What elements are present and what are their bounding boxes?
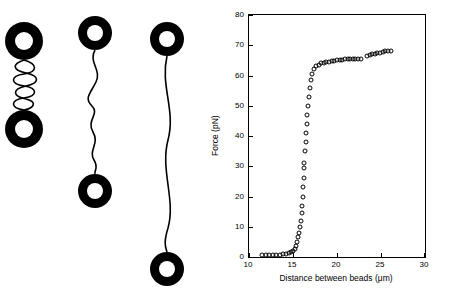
y-axis-tick	[249, 197, 253, 198]
x-axis-tick-label: 20	[332, 260, 341, 269]
y-axis-tick-label: 30	[200, 161, 244, 170]
data-point	[358, 57, 363, 62]
data-point	[294, 244, 299, 249]
data-point	[298, 218, 303, 223]
y-axis-tick	[249, 106, 253, 107]
data-point	[306, 94, 311, 99]
figure-root: Force (pN) Distance between beads (μm) 0…	[0, 0, 450, 295]
y-axis-tick-label: 80	[200, 10, 244, 19]
y-axis-tick-label: 70	[200, 40, 244, 49]
y-axis-tick	[249, 45, 253, 46]
plot-area	[249, 15, 425, 257]
plot-frame	[248, 14, 426, 258]
y-axis-tick	[249, 15, 253, 16]
y-axis-tick	[249, 76, 253, 77]
y-axis-tick-label: 10	[200, 221, 244, 230]
y-axis-tick-label: 0	[200, 252, 244, 261]
x-axis-tick-label: 15	[288, 260, 297, 269]
dna-strand-extended	[0, 0, 196, 295]
x-axis-tick	[337, 253, 338, 257]
data-point	[308, 78, 313, 83]
data-point	[305, 112, 310, 117]
data-point	[303, 140, 308, 145]
data-point	[304, 121, 309, 126]
y-axis-tick-label: 40	[200, 131, 244, 140]
data-point	[304, 130, 309, 135]
data-point	[300, 194, 305, 199]
x-axis-label: Distance between beads (μm)	[248, 273, 424, 283]
data-point	[310, 71, 315, 76]
data-point	[298, 224, 303, 229]
y-axis-tick	[249, 166, 253, 167]
data-point	[388, 48, 393, 53]
data-point	[307, 85, 312, 90]
data-point	[295, 239, 300, 244]
x-axis-tick	[424, 253, 425, 257]
y-axis-tick	[249, 136, 253, 137]
data-point	[303, 149, 308, 154]
x-axis-tick-label: 30	[420, 260, 429, 269]
y-axis-tick	[249, 257, 253, 258]
y-axis-tick-label: 60	[200, 70, 244, 79]
x-axis-tick-label: 25	[376, 260, 385, 269]
data-point	[299, 211, 304, 216]
data-point	[302, 161, 307, 166]
y-axis-tick-label: 50	[200, 100, 244, 109]
data-point	[305, 103, 310, 108]
x-axis-tick	[381, 253, 382, 257]
data-point	[296, 235, 301, 240]
dna-stretching-illustration	[0, 0, 196, 295]
data-point	[301, 185, 306, 190]
x-axis-tick	[249, 253, 250, 257]
y-axis-tick	[249, 227, 253, 228]
data-point	[300, 203, 305, 208]
force-extension-chart: Force (pN) Distance between beads (μm) 0…	[196, 0, 450, 295]
data-point	[297, 230, 302, 235]
x-axis-tick-label: 10	[244, 260, 253, 269]
y-axis-tick-label: 20	[200, 191, 244, 200]
data-point	[301, 176, 306, 181]
data-point	[302, 165, 307, 170]
